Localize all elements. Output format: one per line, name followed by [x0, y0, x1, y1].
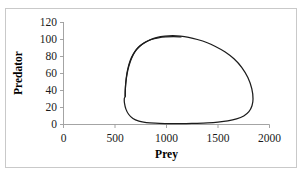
series-line: [125, 37, 181, 97]
x-tick-label: 1000: [155, 132, 178, 144]
x-tick-label: 500: [106, 132, 124, 144]
predator-prey-phase-plot: 120 100 80 60 40 20 0 0 500 1000 1500 20…: [0, 0, 307, 176]
y-tick-label: 80: [46, 50, 58, 62]
series-line: [124, 36, 253, 124]
y-tick-label: 120: [40, 16, 58, 28]
y-tick-label: 100: [40, 33, 58, 45]
x-axis-title: Prey: [155, 148, 178, 161]
data-curves: [124, 36, 253, 124]
y-tick-marks: [60, 23, 64, 125]
y-tick-label: 20: [46, 101, 58, 113]
x-tick-label: 1500: [207, 132, 230, 144]
y-axis-title: Predator: [12, 51, 24, 95]
y-tick-label: 60: [46, 67, 58, 79]
y-tick-labels: 120 100 80 60 40 20 0: [40, 16, 58, 130]
x-tick-labels: 0 500 1000 1500 2000: [61, 132, 282, 144]
x-tick-marks: [64, 125, 270, 129]
y-tick-label: 0: [51, 118, 57, 130]
x-tick-label: 2000: [258, 132, 281, 144]
y-tick-label: 40: [46, 84, 58, 96]
x-tick-label: 0: [61, 132, 67, 144]
